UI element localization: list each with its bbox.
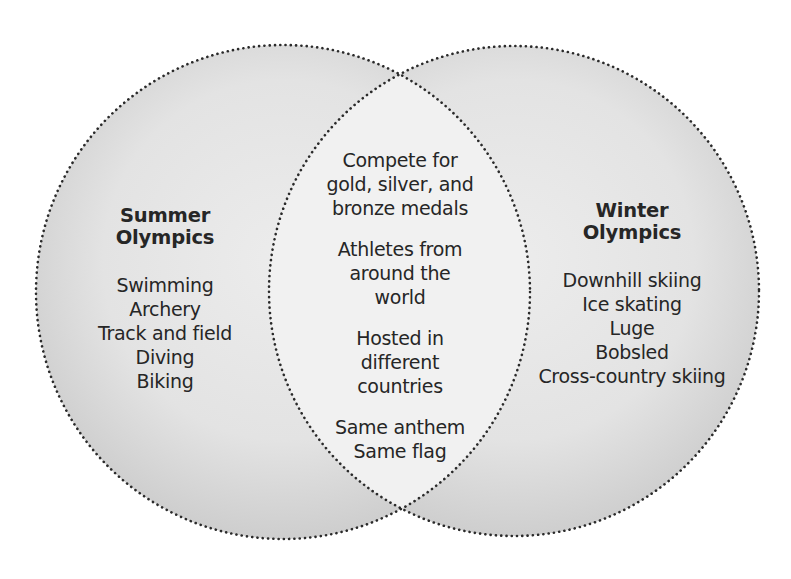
shared-trait-line: world	[326, 285, 473, 309]
shared-trait-line: gold, silver, and	[326, 172, 473, 196]
winter-title-line1: Winter	[538, 200, 725, 222]
winter-item: Cross-country skiing	[538, 364, 725, 388]
summer-olympics-title: Summer Olympics	[98, 205, 232, 249]
summer-item: Biking	[98, 369, 232, 393]
shared-trait-line: Athletes from	[326, 237, 473, 261]
winter-olympics-items: Downhill skiing Ice skating Luge Bobsled…	[538, 268, 725, 388]
shared-trait-line: around the	[326, 261, 473, 285]
shared-trait-line: Hosted in	[326, 326, 473, 350]
shared-trait-line: Same flag	[326, 439, 473, 463]
shared-trait-anthem-flag: Same anthem Same flag	[326, 415, 473, 463]
shared-traits-block: Compete for gold, silver, and bronze med…	[326, 148, 473, 463]
summer-item: Diving	[98, 345, 232, 369]
summer-title-line2: Olympics	[98, 227, 232, 249]
shared-trait-hosting: Hosted in different countries	[326, 326, 473, 398]
winter-title-line2: Olympics	[538, 222, 725, 244]
winter-olympics-title: Winter Olympics	[538, 200, 725, 244]
shared-trait-medals: Compete for gold, silver, and bronze med…	[326, 148, 473, 220]
winter-item: Ice skating	[538, 292, 725, 316]
shared-trait-athletes: Athletes from around the world	[326, 237, 473, 309]
shared-trait-line: countries	[326, 374, 473, 398]
shared-trait-line: Same anthem	[326, 415, 473, 439]
winter-olympics-block: Winter Olympics Downhill skiing Ice skat…	[538, 200, 725, 388]
summer-item: Track and field	[98, 321, 232, 345]
summer-title-line1: Summer	[98, 205, 232, 227]
winter-item: Luge	[538, 316, 725, 340]
summer-item: Archery	[98, 297, 232, 321]
shared-trait-line: bronze medals	[326, 196, 473, 220]
shared-trait-line: different	[326, 350, 473, 374]
summer-olympics-block: Summer Olympics Swimming Archery Track a…	[98, 205, 232, 393]
winter-item: Bobsled	[538, 340, 725, 364]
shared-trait-line: Compete for	[326, 148, 473, 172]
winter-item: Downhill skiing	[538, 268, 725, 292]
summer-olympics-items: Swimming Archery Track and field Diving …	[98, 273, 232, 393]
summer-item: Swimming	[98, 273, 232, 297]
